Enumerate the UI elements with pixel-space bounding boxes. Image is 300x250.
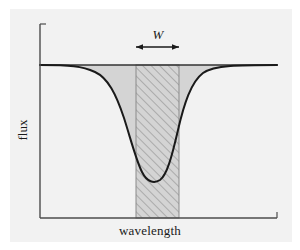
width-measure-arrow <box>136 44 179 50</box>
equivalent-width-figure: W flux wavelength <box>0 0 300 250</box>
y-axis-label-wrapper: flux <box>12 100 34 160</box>
x-axis-label: wavelength <box>0 223 300 239</box>
y-axis-label: flux <box>15 120 31 141</box>
width-marker-label: W <box>136 27 180 43</box>
equivalent-width-rectangle <box>136 65 179 218</box>
